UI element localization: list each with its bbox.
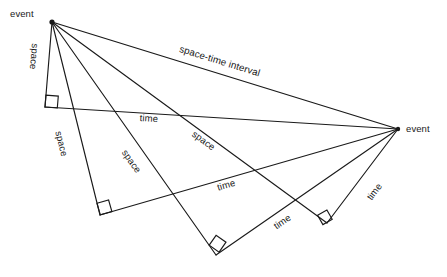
space-label-1: space [28, 43, 40, 70]
time-leg-2 [100, 129, 398, 215]
event-left-label: event [10, 9, 34, 19]
right-angle-marker-1 [45, 95, 58, 108]
event-left-vertex [49, 19, 54, 24]
time-label-1: time [139, 113, 158, 124]
right-angle-marker-2 [97, 200, 112, 215]
time-leg-4 [327, 129, 398, 223]
time-leg-1 [45, 107, 398, 129]
space-leg-1 [45, 22, 52, 107]
event-right-vertex [396, 127, 400, 131]
event-right-label: event [406, 124, 430, 134]
spacetime-interval-diagram: event event space-time interval space sp… [0, 0, 447, 277]
diagram-canvas [0, 0, 447, 277]
space-time-interval-line [52, 22, 398, 129]
space-leg-2 [52, 22, 100, 215]
